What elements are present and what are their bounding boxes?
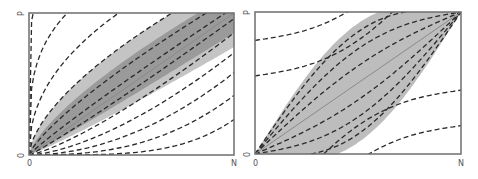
right-x-right-label: N xyxy=(458,159,464,168)
left-x-right-label: N xyxy=(231,159,237,168)
left-y-top-label: P xyxy=(17,11,26,16)
left-x-left-label: 0 xyxy=(27,159,32,168)
right-x-left-label: 0 xyxy=(253,159,258,168)
right-y-bottom-label: 0 xyxy=(243,152,252,157)
right-panel-plot-area xyxy=(255,0,461,179)
right-y-top-label: P xyxy=(243,10,252,15)
left-panel: P 0 0 N xyxy=(17,0,237,168)
right-panel: P 0 0 N xyxy=(243,0,464,179)
isometrics-figure: P 0 0 N P 0 0 N xyxy=(0,0,478,179)
left-y-bottom-label: 0 xyxy=(17,153,26,158)
dashed-curve xyxy=(255,0,461,5)
dashed-curve xyxy=(255,161,461,179)
left-panel-plot-area xyxy=(29,0,234,155)
